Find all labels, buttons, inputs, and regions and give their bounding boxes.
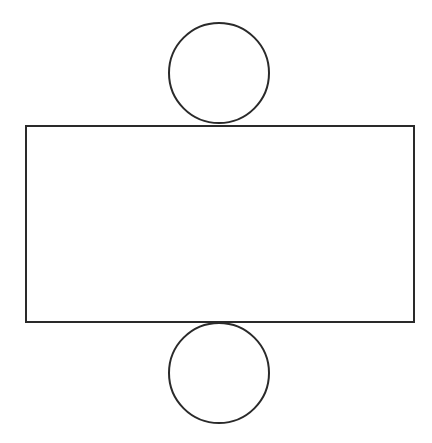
- lateral-surface-rectangle: [26, 126, 414, 322]
- top-circle-base: [169, 23, 269, 123]
- bottom-circle-base: [169, 323, 269, 423]
- cylinder-net-diagram: [0, 0, 432, 443]
